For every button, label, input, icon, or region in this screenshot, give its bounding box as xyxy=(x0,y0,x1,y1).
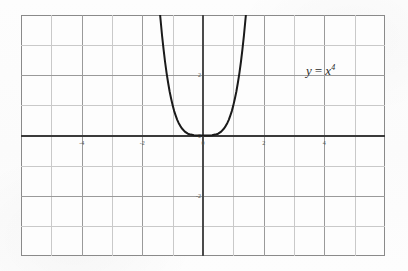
curve-layer xyxy=(21,15,385,256)
equation-exponent: 4 xyxy=(331,63,335,72)
function-curve-svg xyxy=(21,15,385,256)
function-curve xyxy=(160,15,246,136)
equation-operator: = xyxy=(312,63,325,78)
equation-annotation: y=x4 xyxy=(306,63,336,79)
plot-area: -4-202420-2 xyxy=(21,15,385,256)
figure-page: -4-202420-2 y=x4 xyxy=(0,0,408,271)
